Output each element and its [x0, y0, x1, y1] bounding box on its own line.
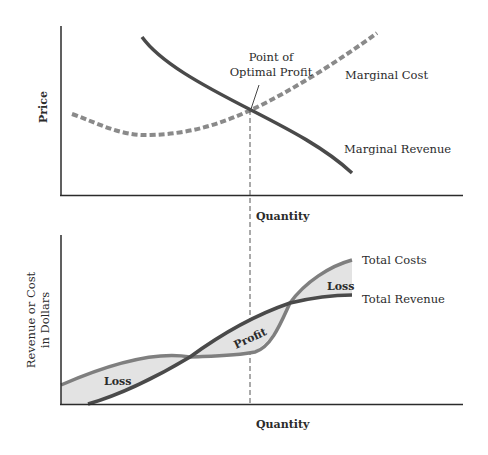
- bottom-y-axis-label-line2: in Dollars: [38, 292, 52, 349]
- marginal-revenue-line: [142, 37, 352, 173]
- legend-total-revenue: Total Revenue: [362, 292, 445, 306]
- economics-chart: Point of Optimal Profit Marginal Cost Ma…: [0, 0, 488, 455]
- marginal-cost-line: [72, 33, 377, 135]
- annotation-optimal-profit: Optimal Profit: [230, 65, 313, 79]
- region-label-loss-right: Loss: [327, 280, 354, 293]
- top-x-axis-label: Quantity: [256, 210, 310, 223]
- legend-total-costs: Total Costs: [362, 253, 427, 267]
- bottom-y-axis-label-line1: Revenue or Cost: [24, 271, 38, 368]
- total-costs-line: [61, 260, 352, 385]
- top-y-axis-label: Price: [37, 91, 50, 123]
- legend-marginal-revenue: Marginal Revenue: [344, 142, 451, 156]
- annotation-point-of: Point of: [249, 50, 294, 64]
- bottom-chart: Loss Profit Loss Total Costs Total Reven…: [24, 235, 463, 431]
- region-label-loss-left: Loss: [104, 375, 131, 388]
- legend-marginal-cost: Marginal Cost: [345, 68, 428, 82]
- bottom-x-axis-label: Quantity: [256, 418, 310, 431]
